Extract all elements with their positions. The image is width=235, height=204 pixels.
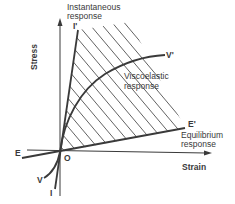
instantaneous-start-label: I — [50, 189, 52, 198]
viscoelastic-caption-line2: response — [124, 82, 159, 91]
stress-axis-label: Stress — [30, 44, 39, 70]
instantaneous-end-label: I' — [73, 22, 77, 31]
equilibrium-end-label: E' — [188, 120, 196, 129]
equilibrium-caption-line2: response — [181, 140, 216, 149]
strain-axis-arrow-icon — [204, 151, 212, 156]
viscoelastic-start-label: V — [37, 176, 43, 185]
strain-axis-label: Strain — [182, 163, 206, 172]
equilibrium-start-label: E — [15, 149, 21, 158]
origin-label: O — [64, 154, 71, 163]
viscoelastic-caption-line1: Viscoelastic — [124, 72, 169, 81]
instantaneous-caption-line2: response — [67, 12, 102, 21]
diagram-canvas — [0, 0, 235, 204]
equilibrium-response-line — [22, 128, 185, 158]
instantaneous-response-line — [55, 30, 78, 189]
stress-strain-diagram: Instantaneous response I' V' Viscoelasti… — [0, 0, 235, 204]
viscoelastic-end-label: V' — [166, 51, 174, 60]
stress-axis-arrow-icon — [58, 18, 63, 26]
